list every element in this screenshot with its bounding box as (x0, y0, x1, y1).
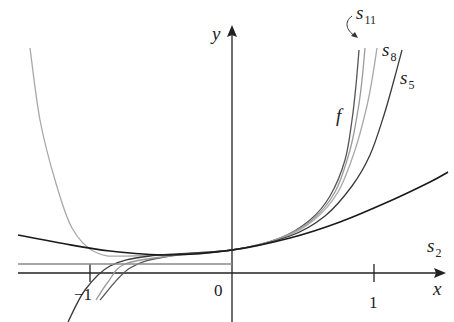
y-axis-label: y (212, 24, 220, 43)
chart: y x −1 0 1 f s11 s8 s5 s2 (0, 0, 454, 322)
arrowhead-icon (351, 32, 358, 38)
tick-label-1: 1 (369, 294, 378, 311)
tick-label-0: 0 (214, 282, 223, 299)
curve-s8 (30, 48, 377, 256)
label-s5: s5 (400, 68, 413, 87)
label-s11: s11 (356, 3, 375, 22)
curve-s11 (96, 48, 365, 300)
axes (18, 25, 446, 322)
label-f: f (336, 106, 341, 125)
curve-s5 (68, 50, 402, 322)
tick-label-neg1: −1 (74, 286, 92, 303)
curve-f (100, 50, 359, 300)
label-s8: s8 (382, 40, 395, 59)
x-axis-label: x (433, 279, 441, 298)
label-s2: s2 (427, 236, 440, 255)
curves (18, 48, 448, 322)
s11-pointer-arrow (347, 16, 355, 36)
